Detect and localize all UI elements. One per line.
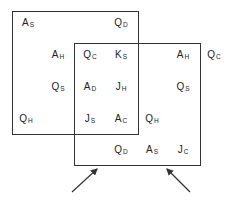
arrows-layer	[0, 0, 232, 205]
left-arrow-icon	[72, 169, 97, 192]
right-arrow-icon	[167, 169, 190, 192]
